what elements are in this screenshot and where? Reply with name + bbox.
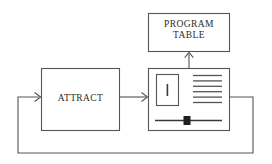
block-flow-diagram: PROGRAM TABLE ATTRACT xyxy=(0,0,272,164)
text-caret-icon xyxy=(167,84,169,96)
attract-box xyxy=(42,69,120,131)
slider-handle[interactable] xyxy=(184,116,191,125)
diagram-canvas xyxy=(0,0,272,164)
program-table-box xyxy=(149,14,230,52)
